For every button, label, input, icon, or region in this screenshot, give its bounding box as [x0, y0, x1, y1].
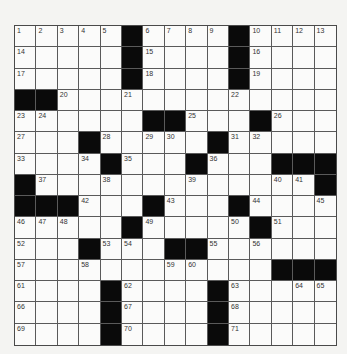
- crossword-cell[interactable]: [36, 302, 57, 323]
- crossword-cell[interactable]: [58, 154, 79, 175]
- crossword-cell[interactable]: [186, 90, 207, 111]
- crossword-cell[interactable]: [208, 217, 229, 238]
- crossword-cell[interactable]: 63: [229, 281, 250, 302]
- crossword-cell[interactable]: 35: [122, 154, 143, 175]
- crossword-cell[interactable]: 19: [250, 69, 271, 90]
- crossword-cell[interactable]: 28: [101, 132, 122, 153]
- crossword-cell[interactable]: 55: [208, 239, 229, 260]
- crossword-cell[interactable]: [208, 260, 229, 281]
- crossword-cell[interactable]: 18: [143, 69, 164, 90]
- crossword-cell[interactable]: 2: [36, 26, 57, 47]
- crossword-cell[interactable]: 21: [122, 90, 143, 111]
- crossword-cell[interactable]: [315, 324, 336, 345]
- crossword-cell[interactable]: [79, 281, 100, 302]
- crossword-cell[interactable]: 45: [315, 196, 336, 217]
- crossword-cell[interactable]: [58, 302, 79, 323]
- crossword-cell[interactable]: 41: [293, 175, 314, 196]
- crossword-cell[interactable]: [122, 196, 143, 217]
- crossword-cell[interactable]: [79, 175, 100, 196]
- crossword-cell[interactable]: 65: [315, 281, 336, 302]
- crossword-cell[interactable]: [122, 111, 143, 132]
- crossword-cell[interactable]: 12: [293, 26, 314, 47]
- crossword-cell[interactable]: 9: [208, 26, 229, 47]
- crossword-cell[interactable]: [58, 175, 79, 196]
- crossword-cell[interactable]: [293, 111, 314, 132]
- crossword-cell[interactable]: 30: [165, 132, 186, 153]
- crossword-cell[interactable]: 71: [229, 324, 250, 345]
- crossword-cell[interactable]: 37: [36, 175, 57, 196]
- crossword-cell[interactable]: [315, 90, 336, 111]
- crossword-cell[interactable]: 62: [122, 281, 143, 302]
- crossword-cell[interactable]: [165, 324, 186, 345]
- crossword-cell[interactable]: [36, 132, 57, 153]
- crossword-cell[interactable]: [250, 302, 271, 323]
- crossword-cell[interactable]: 16: [250, 47, 271, 68]
- crossword-cell[interactable]: [79, 69, 100, 90]
- crossword-cell[interactable]: 22: [229, 90, 250, 111]
- crossword-cell[interactable]: [101, 196, 122, 217]
- crossword-cell[interactable]: [143, 302, 164, 323]
- crossword-cell[interactable]: [122, 175, 143, 196]
- crossword-cell[interactable]: 6: [143, 26, 164, 47]
- crossword-cell[interactable]: 68: [229, 302, 250, 323]
- crossword-cell[interactable]: [79, 302, 100, 323]
- crossword-cell[interactable]: [315, 47, 336, 68]
- crossword-cell[interactable]: 48: [58, 217, 79, 238]
- crossword-cell[interactable]: [58, 47, 79, 68]
- crossword-cell[interactable]: 11: [272, 26, 293, 47]
- crossword-cell[interactable]: 40: [272, 175, 293, 196]
- crossword-cell[interactable]: [272, 132, 293, 153]
- crossword-cell[interactable]: 20: [58, 90, 79, 111]
- crossword-cell[interactable]: [208, 47, 229, 68]
- crossword-cell[interactable]: [36, 239, 57, 260]
- crossword-cell[interactable]: [315, 302, 336, 323]
- crossword-cell[interactable]: 3: [58, 26, 79, 47]
- crossword-cell[interactable]: [315, 69, 336, 90]
- crossword-cell[interactable]: [272, 196, 293, 217]
- crossword-cell[interactable]: 4: [79, 26, 100, 47]
- crossword-cell[interactable]: [36, 154, 57, 175]
- crossword-cell[interactable]: [58, 132, 79, 153]
- crossword-cell[interactable]: 60: [186, 260, 207, 281]
- crossword-cell[interactable]: 52: [15, 239, 36, 260]
- crossword-cell[interactable]: [250, 281, 271, 302]
- crossword-cell[interactable]: [208, 111, 229, 132]
- crossword-cell[interactable]: [229, 154, 250, 175]
- crossword-cell[interactable]: [36, 281, 57, 302]
- crossword-cell[interactable]: 57: [15, 260, 36, 281]
- crossword-cell[interactable]: 54: [122, 239, 143, 260]
- crossword-cell[interactable]: [165, 154, 186, 175]
- crossword-cell[interactable]: 34: [79, 154, 100, 175]
- crossword-cell[interactable]: [165, 281, 186, 302]
- crossword-cell[interactable]: [272, 90, 293, 111]
- crossword-cell[interactable]: [165, 302, 186, 323]
- crossword-cell[interactable]: 64: [293, 281, 314, 302]
- crossword-cell[interactable]: 38: [101, 175, 122, 196]
- crossword-cell[interactable]: [186, 69, 207, 90]
- crossword-cell[interactable]: [293, 69, 314, 90]
- crossword-cell[interactable]: 33: [15, 154, 36, 175]
- crossword-cell[interactable]: [79, 111, 100, 132]
- crossword-cell[interactable]: [208, 175, 229, 196]
- crossword-cell[interactable]: [165, 175, 186, 196]
- crossword-cell[interactable]: [208, 196, 229, 217]
- crossword-cell[interactable]: [143, 154, 164, 175]
- crossword-cell[interactable]: [250, 324, 271, 345]
- crossword-cell[interactable]: [293, 324, 314, 345]
- crossword-cell[interactable]: [208, 69, 229, 90]
- crossword-cell[interactable]: [122, 132, 143, 153]
- crossword-cell[interactable]: [36, 47, 57, 68]
- crossword-cell[interactable]: [165, 47, 186, 68]
- crossword-cell[interactable]: [36, 324, 57, 345]
- crossword-cell[interactable]: [186, 132, 207, 153]
- crossword-cell[interactable]: 7: [165, 26, 186, 47]
- crossword-cell[interactable]: 32: [250, 132, 271, 153]
- crossword-cell[interactable]: 26: [272, 111, 293, 132]
- crossword-cell[interactable]: [143, 239, 164, 260]
- crossword-cell[interactable]: 23: [15, 111, 36, 132]
- crossword-cell[interactable]: [101, 260, 122, 281]
- crossword-cell[interactable]: [293, 239, 314, 260]
- crossword-cell[interactable]: [101, 90, 122, 111]
- crossword-cell[interactable]: [315, 239, 336, 260]
- crossword-cell[interactable]: 47: [36, 217, 57, 238]
